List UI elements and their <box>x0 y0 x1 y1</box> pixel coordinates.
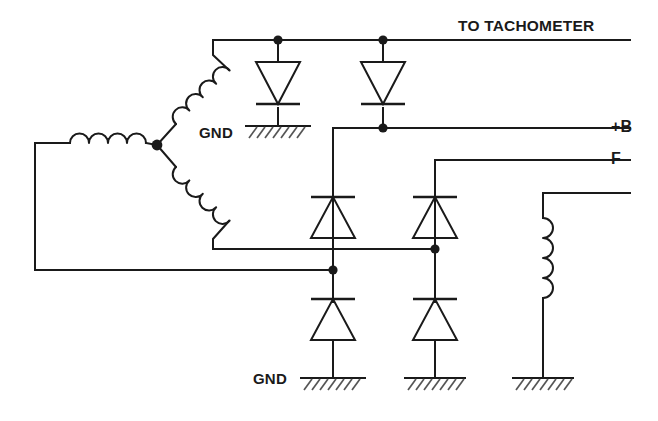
wire-upper-coil-to-tach-rail <box>213 40 229 70</box>
wire-lower-coil-to-mid-bus <box>213 221 435 249</box>
stator-coil-horizontal <box>70 134 146 144</box>
plus-b-label: +B <box>611 119 632 135</box>
negative-label: – <box>611 185 620 201</box>
diode-top-left <box>256 62 300 104</box>
ground-bottom-right-icon <box>512 378 574 390</box>
junction-star-point <box>152 140 163 151</box>
gnd-lower-label: GND <box>253 371 287 386</box>
gnd-upper-label: GND <box>199 125 233 140</box>
wire-phase-a-return <box>35 143 333 270</box>
diode-top-right <box>361 62 405 104</box>
ground-upper-icon <box>245 126 311 138</box>
junction-plus-b <box>378 123 387 132</box>
junction-tach-right <box>378 35 387 44</box>
junction-mid-right <box>430 244 439 253</box>
diode-bottom-left <box>311 299 355 340</box>
stator-coil-lower-diagonal <box>173 167 230 224</box>
junction-tach-left <box>273 35 282 44</box>
stator-coil-upper-diagonal <box>173 67 230 124</box>
ground-bottom-mid-icon <box>404 378 466 390</box>
field-label: F <box>611 151 621 167</box>
diode-bottom-right <box>413 299 457 340</box>
ground-bottom-left-icon <box>300 378 366 390</box>
circuit-diagram-canvas: TO TACHOMETER +B F – GND GND <box>0 0 658 421</box>
wire-field-rail <box>435 160 630 249</box>
field-coil <box>543 218 553 298</box>
schematic-drawing <box>0 0 658 421</box>
junction-mid-left <box>328 265 337 274</box>
tachometer-label: TO TACHOMETER <box>458 18 594 34</box>
